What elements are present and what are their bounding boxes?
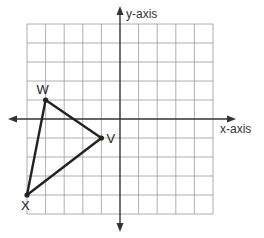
coordinate-plane: y-axis x-axis WVX <box>0 0 264 238</box>
vertex-label-x: X <box>21 198 30 213</box>
x-axis-label: x-axis <box>220 122 251 136</box>
y-axis-up-arrow-icon <box>117 6 124 15</box>
y-axis-label: y-axis <box>126 7 157 21</box>
y-axis-down-arrow-icon <box>117 223 124 232</box>
vertex-point-v <box>99 135 104 140</box>
x-axis-left-arrow-icon <box>8 116 17 123</box>
vertex-point-x <box>24 192 29 197</box>
vertex-label-v: V <box>106 131 115 146</box>
vertex-point-w <box>43 97 48 102</box>
vertex-label-w: W <box>37 82 50 97</box>
